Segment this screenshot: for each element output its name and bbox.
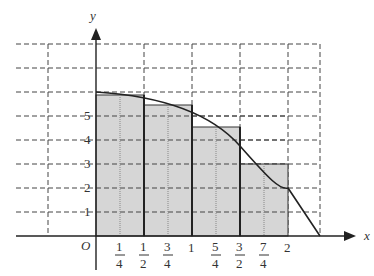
origin-label: O <box>81 238 91 253</box>
riemann-diagram: y x O 1 2 3 4 5 1 4 1 2 3 4 1 5 4 3 2 7 … <box>0 0 374 276</box>
x-axis-arrow-icon <box>344 231 356 241</box>
x-axis-label: x <box>363 228 370 243</box>
x-tick-3-4: 3 4 <box>163 239 173 271</box>
svg-text:4: 4 <box>116 256 123 271</box>
y-axis-label: y <box>88 8 96 23</box>
rectangle-2 <box>144 105 192 236</box>
x-tick-3-2: 3 2 <box>235 239 245 271</box>
svg-text:3: 3 <box>236 239 243 254</box>
svg-text:1: 1 <box>116 239 123 254</box>
y-tick-5: 5 <box>84 108 91 123</box>
x-tick-7-4: 7 4 <box>259 239 269 271</box>
svg-text:4: 4 <box>164 256 171 271</box>
svg-text:3: 3 <box>164 239 171 254</box>
svg-text:5: 5 <box>212 239 219 254</box>
svg-text:4: 4 <box>212 256 219 271</box>
svg-text:4: 4 <box>260 256 267 271</box>
y-tick-3: 3 <box>84 156 91 171</box>
svg-text:1: 1 <box>140 239 147 254</box>
x-tick-1-2: 1 2 <box>139 239 149 271</box>
x-tick-5-4: 5 4 <box>211 239 221 271</box>
x-tick-1: 1 <box>188 240 195 255</box>
x-tick-1-4: 1 4 <box>115 239 125 271</box>
y-tick-4: 4 <box>84 132 91 147</box>
svg-text:2: 2 <box>140 256 147 271</box>
svg-text:7: 7 <box>260 239 267 254</box>
svg-text:2: 2 <box>236 256 243 271</box>
y-tick-1: 1 <box>84 204 91 219</box>
y-tick-2: 2 <box>84 180 91 195</box>
x-tick-2: 2 <box>284 240 291 255</box>
y-axis-arrow-icon <box>91 28 101 40</box>
